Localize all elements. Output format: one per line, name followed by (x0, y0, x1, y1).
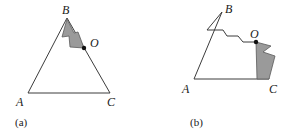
panel-a-point-label-o: O (90, 37, 99, 49)
panel-b-vertex-label-b: B (225, 3, 232, 15)
panel-a-vertex-label-a: A (16, 96, 23, 108)
panel-b-vertex-label-c: C (269, 83, 277, 95)
panel-b-drawing (149, 0, 298, 138)
panel-a-vertex-label-c: C (107, 96, 115, 108)
panel-b-vertex-label-a: A (182, 83, 189, 95)
panel-a-shaded-region (62, 19, 84, 48)
panel-a-caption: (a) (15, 117, 27, 128)
panel-b-caption: (b) (190, 117, 203, 128)
panel-a-vertex-label-b: B (62, 4, 69, 16)
panel-b-shaded-region (256, 42, 275, 79)
figure-root: B A C O (a) B A C O (b) (0, 0, 298, 138)
panel-a-point-o-marker (82, 46, 86, 50)
figure-panel-b: B A C O (b) (149, 0, 298, 138)
figure-panel-a: B A C O (a) (0, 0, 149, 138)
panel-b-point-label-o: O (250, 28, 259, 40)
